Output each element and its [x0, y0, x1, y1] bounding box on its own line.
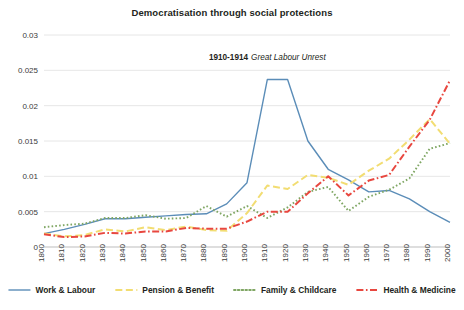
x-axis-tick-label: 1960 [362, 244, 371, 262]
y-axis-tick-label: 0.005 [18, 208, 39, 217]
annotation-text: Great Labour Unrest [251, 53, 326, 62]
x-axis-tick-label: 1920 [281, 244, 290, 262]
chart-legend: Work & LabourPension & BenefitFamily & C… [8, 285, 455, 295]
x-axis-tick-label: 1990 [423, 244, 432, 262]
x-axis-tick-label: 1970 [382, 244, 391, 262]
legend-label: Pension & Benefit [142, 285, 214, 295]
x-axis-tick-label: 1900 [240, 244, 249, 262]
x-axis-tick-label: 1950 [342, 244, 351, 262]
legend-label: Work & Labour [35, 285, 96, 295]
x-axis-tick-label: 1830 [98, 244, 107, 262]
annotation-date: 1910-1914 [209, 53, 249, 62]
y-axis-tick-label: 0.03 [22, 31, 38, 40]
x-axis-tick-label: 1880 [199, 244, 208, 262]
x-axis-tick-label: 1910 [260, 244, 269, 262]
x-axis-tick-label: 1870 [179, 244, 188, 262]
x-axis-tick-label: 2000 [443, 244, 452, 262]
chart-container: Democratisation through social protectio… [0, 0, 464, 310]
x-axis-tick-label: 1940 [321, 244, 330, 262]
gridlines-group [44, 35, 450, 247]
series-line [44, 143, 450, 227]
x-axis-tick-label: 1820 [78, 244, 87, 262]
legend-label: Health & Medicine [383, 285, 455, 295]
x-axis-tick-label: 1980 [402, 244, 411, 262]
y-axis-tick-label: 0.025 [18, 66, 39, 75]
x-axis-tick-label: 1840 [118, 244, 127, 262]
x-axis-tick-label: 1810 [57, 244, 66, 262]
x-axis-tick-labels: 1800181018201830184018501860187018801890… [37, 244, 452, 262]
chart-plot-area: 00.0050.010.0150.020.0250.03 18001810182… [0, 0, 464, 310]
x-axis-tick-label: 1800 [37, 244, 46, 262]
x-axis-tick-label: 1860 [159, 244, 168, 262]
annotation-group: 1910-1914Great Labour Unrest [209, 53, 327, 62]
y-axis-tick-label: 0.015 [18, 137, 39, 146]
x-axis-tick-label: 1890 [220, 244, 229, 262]
x-axis-tick-label: 1850 [139, 244, 148, 262]
y-axis-tick-label: 0.02 [22, 102, 38, 111]
y-axis-tick-labels: 00.0050.010.0150.020.0250.03 [18, 31, 39, 252]
x-axis-tick-label: 1930 [301, 244, 310, 262]
series-line [44, 80, 450, 234]
legend-label: Family & Childcare [261, 285, 337, 295]
chart-annotation: 1910-1914Great Labour Unrest [209, 53, 327, 62]
y-axis-tick-label: 0.01 [22, 172, 38, 181]
data-series-group [44, 80, 450, 238]
